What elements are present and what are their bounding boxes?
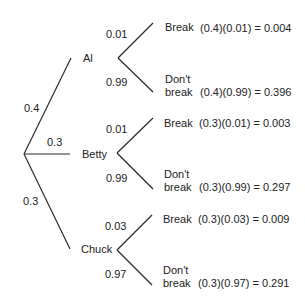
prob-betty-nobreak: 0.99 [106,172,127,185]
prob-al-break: 0.01 [106,28,127,41]
outcome-al-break: Break [165,21,194,34]
node-chuck: Chuck [81,243,112,256]
prob-chuck-nobreak: 0.97 [105,268,126,281]
tree-lines [0,0,305,306]
calc-chuck-break: (0.3)(0.03) = 0.009 [198,213,289,226]
node-al: Al [83,52,93,65]
calc-betty-break: (0.3)(0.01) = 0.003 [199,117,290,130]
prob-root-al: 0.4 [24,102,39,115]
node-betty: Betty [82,148,107,161]
outcome-al-nobreak-2: break [165,86,193,99]
prob-al-nobreak: 0.99 [106,76,127,89]
prob-root-betty: 0.3 [47,136,62,149]
outcome-betty-break: Break [164,117,193,130]
calc-betty-nobreak: (0.3)(0.99) = 0.297 [199,181,290,194]
calc-al-nobreak: (0.4)(0.99) = 0.396 [200,86,291,99]
outcome-chuck-nobreak-1: Don't [163,264,188,277]
calc-chuck-nobreak: (0.3)(0.97) = 0.291 [198,277,289,290]
outcome-chuck-nobreak-2: break [163,277,191,290]
prob-betty-break: 0.01 [106,123,127,136]
outcome-betty-nobreak-2: break [164,181,192,194]
prob-chuck-break: 0.03 [105,220,126,233]
outcome-al-nobreak-1: Don't [165,73,190,86]
outcome-chuck-break: Break [163,213,192,226]
calc-al-break: (0.4)(0.01) = 0.004 [200,22,291,35]
prob-root-chuck: 0.3 [23,195,38,208]
outcome-betty-nobreak-1: Don't [164,168,189,181]
